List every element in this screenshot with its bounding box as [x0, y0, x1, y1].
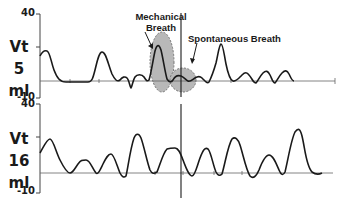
bottom-panel: [36, 104, 333, 198]
bottom-y-max-label: 40: [5, 98, 35, 109]
bottom-label-line-3: ml: [2, 172, 36, 194]
mechanical-breath-label: Mechanical Breath: [128, 11, 194, 33]
top-label-line-2: 5: [2, 58, 36, 80]
mechanical-breath-label-line-2: Breath: [128, 22, 194, 33]
mechanical-breath-arrow: [145, 32, 153, 49]
top-panel-label: Vt 5 ml: [2, 36, 36, 102]
bottom-label-line-1: Vt: [2, 128, 36, 150]
top-label-line-1: Vt: [2, 36, 36, 58]
top-y-max-label: 40: [5, 7, 35, 18]
bottom-label-line-2: 16: [2, 150, 36, 172]
bottom-panel-label: Vt 16 ml: [2, 128, 36, 194]
spontaneous-breath-label: Spontaneous Breath: [188, 33, 288, 44]
mechanical-breath-label-line-1: Mechanical: [128, 11, 194, 22]
spontaneous-breath-arrow: [190, 43, 197, 64]
